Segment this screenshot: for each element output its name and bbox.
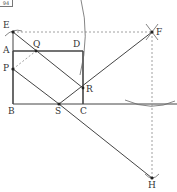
label-a: A bbox=[3, 46, 10, 55]
geometry-diagram bbox=[0, 0, 177, 192]
label-q: Q bbox=[33, 40, 40, 49]
label-s: S bbox=[55, 107, 61, 116]
label-e: E bbox=[3, 21, 10, 30]
label-h: H bbox=[148, 181, 156, 190]
label-b: B bbox=[8, 107, 15, 116]
label-p: P bbox=[3, 64, 9, 73]
label-d: D bbox=[73, 40, 80, 49]
label-c: C bbox=[80, 107, 87, 116]
label-r: R bbox=[86, 85, 93, 94]
label-f: F bbox=[156, 28, 162, 37]
